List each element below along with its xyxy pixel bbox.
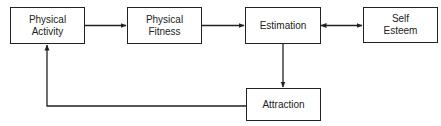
node-label: Estimation bbox=[260, 20, 307, 32]
node-label: Attraction bbox=[262, 99, 304, 111]
edge-attraction-to-activity bbox=[47, 45, 246, 106]
node-label-line2: Fitness bbox=[146, 26, 183, 38]
node-label-line2: Esteem bbox=[384, 25, 418, 37]
node-label-line1: Physical bbox=[29, 14, 66, 26]
node-physical-fitness: Physical Fitness bbox=[127, 7, 202, 44]
node-label-line2: Activity bbox=[29, 26, 66, 38]
node-self-esteem: Self Esteem bbox=[363, 7, 438, 43]
node-attraction: Attraction bbox=[246, 88, 321, 121]
node-label-line1: Self bbox=[384, 13, 418, 25]
node-estimation: Estimation bbox=[245, 7, 321, 44]
node-physical-activity: Physical Activity bbox=[10, 7, 85, 44]
node-label-line1: Physical bbox=[146, 14, 183, 26]
